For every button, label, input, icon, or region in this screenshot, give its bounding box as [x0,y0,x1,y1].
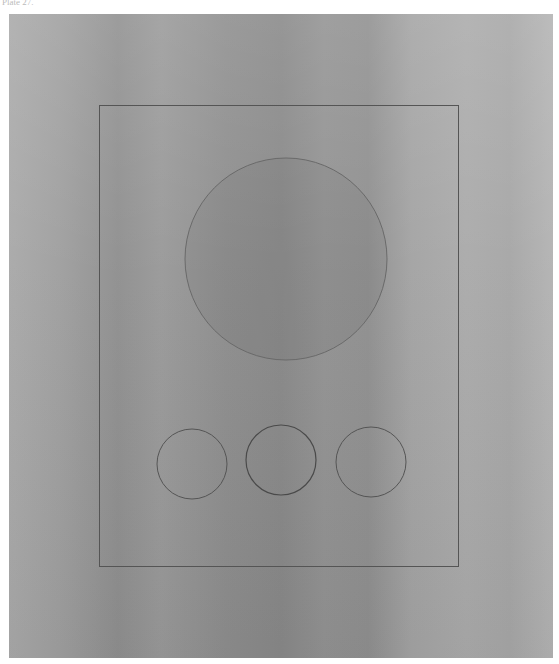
figure-drawing [0,0,559,664]
large-circle [185,158,387,360]
small-circle-center [246,425,316,495]
small-circle-left [157,429,227,499]
small-circle-right [336,427,406,497]
